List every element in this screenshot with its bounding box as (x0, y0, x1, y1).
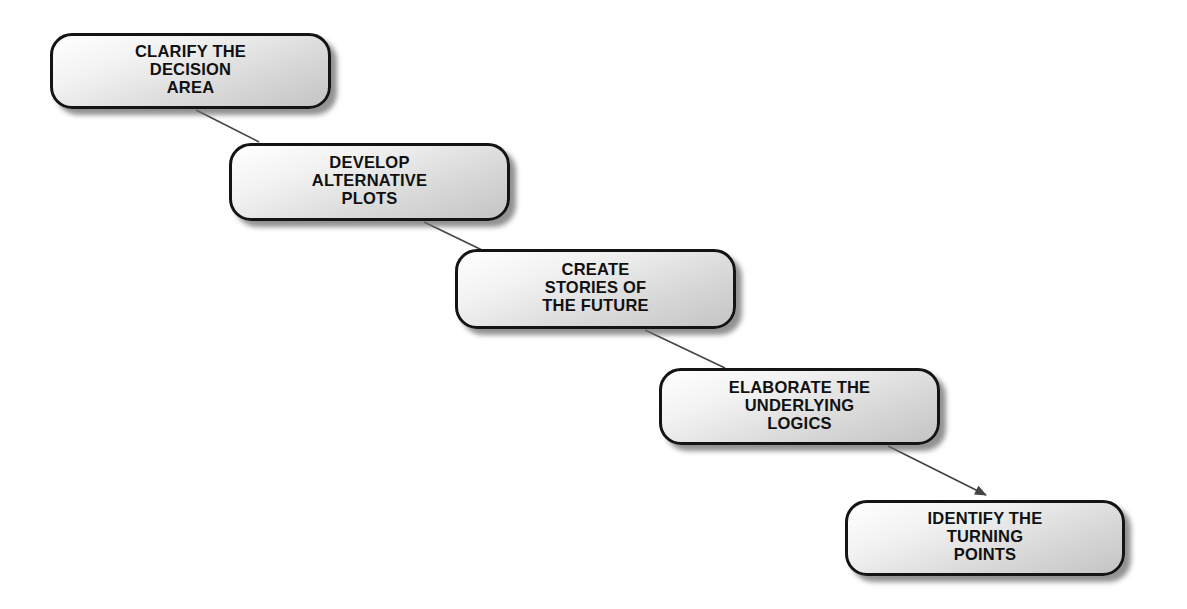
step-label: IDENTIFY THE TURNING POINTS (928, 509, 1043, 563)
step-create-stories-of-future: CREATE STORIES OF THE FUTURE (455, 249, 736, 329)
connector-2-3 (424, 222, 482, 250)
connector-1-2 (196, 110, 259, 142)
step-label: ELABORATE THE UNDERLYING LOGICS (729, 378, 871, 432)
step-label: CREATE STORIES OF THE FUTURE (542, 260, 649, 314)
step-elaborate-underlying-logics: ELABORATE THE UNDERLYING LOGICS (659, 368, 940, 445)
connector-3-4 (645, 330, 725, 368)
step-clarify-decision-area: CLARIFY THE DECISION AREA (50, 33, 331, 109)
connector-4-5-arrow (888, 446, 986, 495)
step-label: DEVELOP ALTERNATIVE PLOTS (312, 153, 427, 207)
process-diagram: CLARIFY THE DECISION AREA DEVELOP ALTERN… (0, 0, 1187, 609)
step-develop-alternative-plots: DEVELOP ALTERNATIVE PLOTS (229, 143, 510, 221)
step-identify-turning-points: IDENTIFY THE TURNING POINTS (845, 500, 1125, 576)
step-label: CLARIFY THE DECISION AREA (135, 42, 246, 96)
